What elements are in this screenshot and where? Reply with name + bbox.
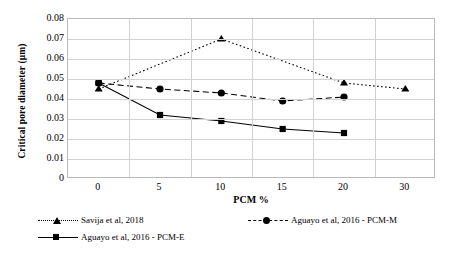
y-axis-tick-label: 0.04: [47, 93, 65, 103]
horizontal-gridline: [68, 99, 434, 100]
legend-item[interactable]: Aguayo et al, 2016 - PCM-M: [248, 215, 397, 226]
legend-marker-triangle: [53, 217, 61, 224]
legend-key: [38, 215, 78, 226]
x-axis-tick-label: 15: [277, 180, 287, 194]
data-point-marker: [341, 130, 347, 136]
vertical-gridline: [375, 19, 376, 177]
legend-label: Aguayo et al, 2016 - PCM-M: [291, 215, 397, 226]
data-point-marker: [156, 85, 163, 92]
vertical-gridline: [191, 19, 192, 177]
y-axis-tick-label: 0.02: [47, 133, 65, 143]
y-axis-tick-labels: 0.080.070.060.050.040.030.020.010: [22, 18, 64, 178]
data-point-marker: [157, 112, 163, 118]
data-point-marker: [96, 80, 102, 86]
horizontal-gridline: [68, 139, 434, 140]
horizontal-gridline: [68, 119, 434, 120]
y-axis-tick-label: 0.01: [47, 153, 65, 163]
y-axis-tick-label: 0: [59, 173, 64, 183]
chart-figure: Critical pore diameter (µm) 0.080.070.06…: [0, 0, 452, 261]
x-axis-tick-label: 10: [215, 180, 225, 194]
data-series: [96, 80, 348, 136]
horizontal-gridline: [68, 59, 434, 60]
legend-key: [38, 232, 78, 243]
vertical-gridline: [313, 19, 314, 177]
x-axis-tick-label: 5: [157, 180, 162, 194]
vertical-gridline: [252, 19, 253, 177]
y-axis-tick-label: 0.07: [47, 33, 65, 43]
legend-label: Savija et al, 2018: [81, 215, 144, 226]
y-axis-tick-label: 0.05: [47, 73, 65, 83]
horizontal-gridline: [68, 79, 434, 80]
legend-key: [248, 215, 288, 226]
legend-item[interactable]: Savija et al, 2018: [38, 215, 144, 226]
y-axis-tick-label: 0.08: [47, 13, 65, 23]
horizontal-gridline: [68, 39, 434, 40]
x-axis-title: PCM %: [67, 194, 435, 205]
x-axis-tick-label: 30: [399, 180, 409, 194]
horizontal-gridline: [68, 159, 434, 160]
y-axis-tick-label: 0.06: [47, 53, 65, 63]
data-point-marker: [280, 126, 286, 132]
legend-label: Aguayo et al, 2016 - PCM-E: [81, 232, 185, 243]
vertical-gridline: [129, 19, 130, 177]
y-axis-tick-label: 0.03: [47, 113, 65, 123]
legend-marker-circle: [263, 217, 270, 224]
x-axis-tick-label: 20: [338, 180, 348, 194]
legend-marker-square: [53, 234, 59, 240]
data-point-marker: [218, 89, 225, 96]
legend-item[interactable]: Aguayo et al, 2016 - PCM-E: [38, 232, 185, 243]
x-axis-tick-label: 0: [95, 180, 100, 194]
plot-area: [67, 18, 435, 178]
chart-legend: Savija et al, 2018Aguayo et al, 2016 - P…: [0, 213, 452, 257]
